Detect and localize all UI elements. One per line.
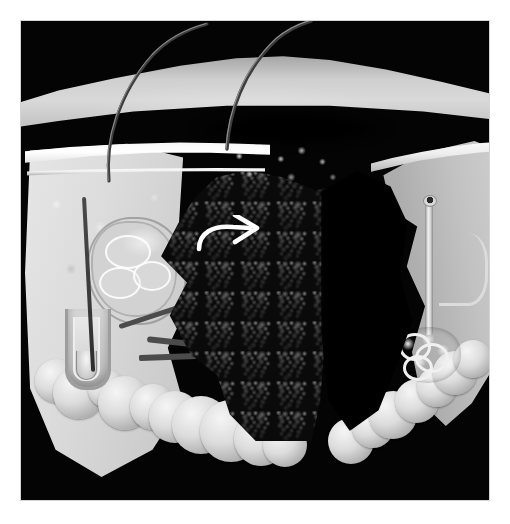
sebaceous-lobule <box>133 261 171 291</box>
dermal-vessel <box>439 233 488 306</box>
photographic-plate <box>21 21 489 500</box>
sweat-pore-icon <box>423 195 437 207</box>
sweat-coil-ring <box>403 355 433 381</box>
figure-root <box>0 0 510 524</box>
sweat-duct <box>425 199 433 335</box>
